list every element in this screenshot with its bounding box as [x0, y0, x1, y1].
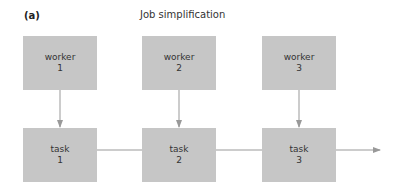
worker-2-box: worker 2 [142, 36, 216, 90]
task-number: 3 [296, 155, 302, 166]
task-label: task [170, 144, 189, 155]
worker-number: 1 [57, 63, 63, 74]
task-3-box: task 3 [262, 128, 336, 182]
worker-label: worker [284, 52, 315, 63]
task-label: task [290, 144, 309, 155]
worker-number: 2 [176, 63, 182, 74]
worker-3-box: worker 3 [262, 36, 336, 90]
worker-number: 3 [296, 63, 302, 74]
task-label: task [51, 144, 70, 155]
task-2-box: task 2 [142, 128, 216, 182]
worker-label: worker [45, 52, 76, 63]
task-1-box: task 1 [23, 128, 97, 182]
worker-label: worker [164, 52, 195, 63]
task-number: 2 [176, 155, 182, 166]
task-number: 1 [57, 155, 63, 166]
worker-1-box: worker 1 [23, 36, 97, 90]
